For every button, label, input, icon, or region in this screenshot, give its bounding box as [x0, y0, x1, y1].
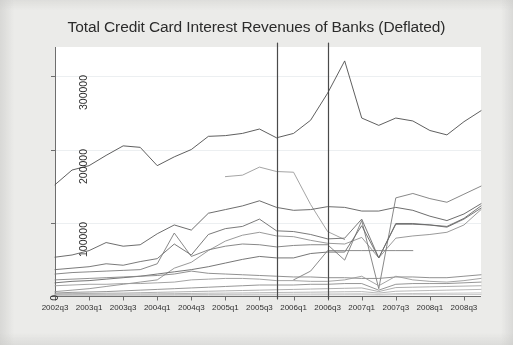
y-axis-tick-label: 0: [48, 295, 60, 301]
x-axis-tick-label: 2008q3: [434, 303, 494, 312]
y-axis-tick-label: 200000: [77, 149, 89, 184]
chart-figure: Total Credit Card Interest Revenues of B…: [0, 0, 513, 345]
page-title: Total Credit Card Interest Revenues of B…: [0, 18, 513, 36]
y-axis-tick-label: 100000: [77, 222, 89, 257]
y-axis-tick-label: 300000: [77, 75, 89, 110]
